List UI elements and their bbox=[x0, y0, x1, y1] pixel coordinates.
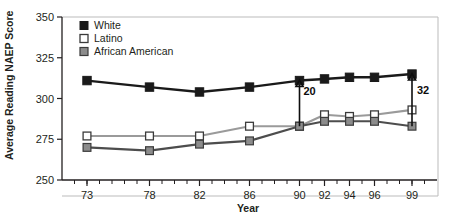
x-tick-label: 86 bbox=[243, 189, 255, 201]
series-white bbox=[83, 70, 416, 96]
legend-item-latino: Latino bbox=[80, 32, 123, 44]
data-point-marker bbox=[83, 76, 91, 84]
data-point-marker bbox=[370, 73, 378, 81]
x-tick-label: 96 bbox=[368, 189, 380, 201]
legend-swatch-icon bbox=[80, 22, 88, 30]
data-point-marker bbox=[196, 132, 204, 140]
legend-item-african-american: African American bbox=[80, 45, 174, 57]
chart-container: 250275300325350 737882869092949699 Avera… bbox=[0, 0, 454, 223]
data-point-marker bbox=[246, 122, 254, 130]
x-tick-label: 92 bbox=[318, 189, 330, 201]
gap-annotation-label: 20 bbox=[304, 85, 316, 97]
data-point-marker bbox=[345, 73, 353, 81]
line-chart: 250275300325350 737882869092949699 Avera… bbox=[0, 0, 454, 223]
y-tick-label: 300 bbox=[36, 93, 54, 105]
data-point-marker bbox=[320, 75, 328, 83]
x-tick-label: 94 bbox=[343, 189, 355, 201]
x-tick-label: 73 bbox=[81, 189, 93, 201]
x-axis: 737882869092949699 bbox=[62, 180, 437, 201]
gap-annotation-label: 32 bbox=[417, 84, 429, 96]
legend-item-white: White bbox=[80, 19, 121, 31]
data-point-marker bbox=[321, 117, 329, 125]
x-tick-label: 78 bbox=[143, 189, 155, 201]
legend-swatch-icon bbox=[80, 48, 88, 56]
y-tick-label: 325 bbox=[36, 52, 54, 64]
y-axis-title: Average Reading NAEP Score bbox=[3, 10, 15, 160]
data-point-marker bbox=[145, 83, 153, 91]
series-latino bbox=[83, 106, 416, 140]
legend-label: African American bbox=[94, 45, 174, 57]
gap-annotation: 32 bbox=[408, 74, 429, 127]
x-tick-label: 90 bbox=[293, 189, 305, 201]
y-tick-label: 350 bbox=[36, 11, 54, 23]
legend-label: White bbox=[94, 19, 121, 31]
legend-label: Latino bbox=[94, 32, 123, 44]
data-point-marker bbox=[146, 132, 154, 140]
legend-swatch-icon bbox=[80, 35, 88, 43]
legend: WhiteLatinoAfrican American bbox=[80, 19, 174, 57]
x-axis-title: Year bbox=[237, 202, 259, 214]
y-tick-label: 275 bbox=[36, 133, 54, 145]
data-series-group bbox=[83, 70, 416, 155]
y-axis: 250275300325350 bbox=[36, 11, 62, 186]
data-point-marker bbox=[146, 147, 154, 155]
data-point-marker bbox=[245, 83, 253, 91]
data-point-marker bbox=[195, 88, 203, 96]
data-point-marker bbox=[346, 117, 354, 125]
data-point-marker bbox=[83, 144, 91, 152]
data-point-marker bbox=[83, 132, 91, 140]
y-tick-label: 250 bbox=[36, 174, 54, 186]
data-point-marker bbox=[371, 117, 379, 125]
data-point-marker bbox=[246, 137, 254, 145]
x-tick-label: 82 bbox=[193, 189, 205, 201]
data-point-marker bbox=[196, 140, 204, 148]
x-tick-label: 99 bbox=[406, 189, 418, 201]
